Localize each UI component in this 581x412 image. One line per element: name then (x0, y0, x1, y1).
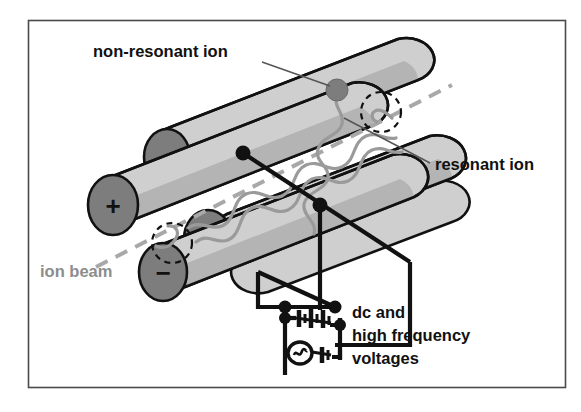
electrode-sign-plus-front-left: + (105, 191, 120, 221)
junction-bus-right (329, 301, 342, 314)
quadrupole-figure: − + + − (0, 0, 581, 412)
junction-rod-front-right (313, 198, 328, 213)
junction-bus-left (279, 301, 292, 314)
label-resonant-ion: resonant ion (435, 155, 534, 173)
figure-canvas: − + + − (0, 0, 581, 412)
junction-rod-rear-upper (236, 146, 251, 161)
label-non-resonant-ion: non-resonant ion (93, 42, 228, 60)
label-dc-and: dc and (352, 303, 405, 321)
junction-dc-left (279, 312, 291, 324)
label-ion-beam: ion beam (40, 262, 112, 280)
non-resonant-ion-dot (326, 79, 348, 101)
label-high-frequency: high frequency (352, 326, 471, 344)
junction-dc-right (334, 319, 346, 331)
label-voltages: voltages (352, 349, 419, 367)
ac-generator-symbol (288, 342, 312, 364)
